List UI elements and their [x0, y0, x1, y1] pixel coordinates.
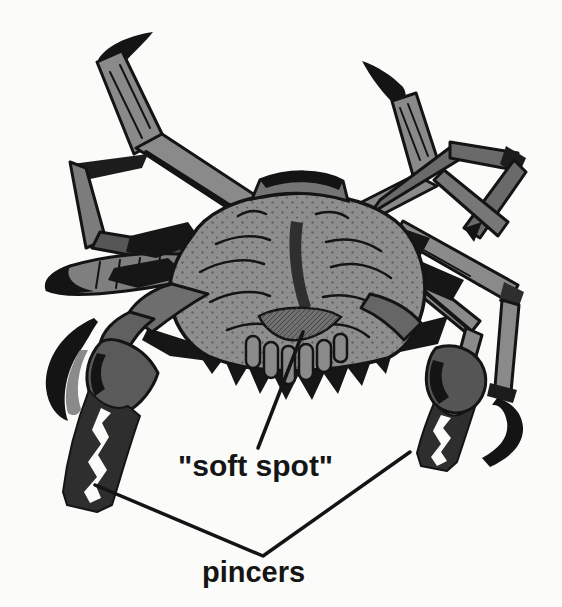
- crab-illustration: [0, 0, 562, 607]
- label-soft-spot: "soft spot": [178, 451, 333, 481]
- label-pincers: pincers: [202, 558, 305, 587]
- figure-crab-diagram: "soft spot" pincers: [0, 0, 562, 607]
